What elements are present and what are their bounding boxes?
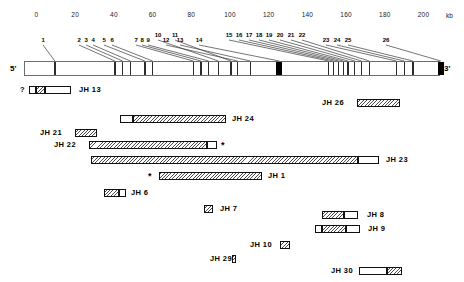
leader-line-20 <box>280 40 355 61</box>
leader-line-18 <box>259 40 343 61</box>
exon-label-9: 9 <box>146 37 149 43</box>
clone-segment-hatch <box>133 115 226 123</box>
exon-mark-24 <box>404 62 405 75</box>
leader-line-7 <box>136 45 193 61</box>
clone-asterisk-marker: * <box>221 142 225 148</box>
leader-line-2 <box>79 45 115 61</box>
clone-segment-white <box>207 141 217 149</box>
leader-line-3 <box>86 45 123 61</box>
exon-mark-5 <box>144 62 145 75</box>
clone-bar[interactable] <box>89 141 217 149</box>
leader-line-10 <box>158 40 218 61</box>
exon-mark-16 <box>333 62 334 75</box>
exon-label-18: 18 <box>256 32 262 38</box>
clone-segment-white <box>315 225 322 233</box>
scale-tick-80: 80 <box>187 11 195 18</box>
leader-line-17 <box>249 40 338 61</box>
clone-label-jh-30: JH 30 <box>331 266 353 275</box>
clone-asterisk-marker: * <box>148 173 152 179</box>
clone-label-jh-1: JH 1 <box>268 171 285 180</box>
exon-mark-17 <box>338 62 339 75</box>
scale-tick-200: 200 <box>418 11 429 18</box>
clone-segment-white <box>359 267 387 275</box>
clone-segment-hatch <box>322 211 344 219</box>
clone-segment-white <box>45 86 71 94</box>
leader-line-1 <box>43 45 55 61</box>
leader-line-22 <box>302 40 369 61</box>
exon-mark-3 <box>122 62 123 75</box>
clone-segment-hatch <box>91 156 358 164</box>
exon-label-1: 1 <box>41 37 44 43</box>
exon-mark-11 <box>230 62 231 75</box>
exon-label-3: 3 <box>84 37 87 43</box>
leader-line-12 <box>166 45 238 61</box>
clone-bar[interactable] <box>232 255 236 263</box>
leader-line-11 <box>175 40 231 61</box>
clone-segment-hatch <box>75 129 97 137</box>
clone-bar[interactable] <box>29 86 71 94</box>
exon-label-4: 4 <box>91 37 94 43</box>
gene-backbone <box>24 61 440 76</box>
clone-bar[interactable] <box>322 211 358 219</box>
scale-tick-140: 140 <box>302 11 313 18</box>
clone-bar[interactable] <box>357 99 400 107</box>
clone-bar[interactable] <box>359 267 402 275</box>
clone-segment-hatch <box>89 141 207 149</box>
leader-line-16 <box>239 40 334 61</box>
exon-label-16: 16 <box>236 32 242 38</box>
clone-label-jh-10: JH 10 <box>250 240 272 249</box>
exon-label-13: 13 <box>177 37 183 43</box>
exon-label-15: 15 <box>226 32 232 38</box>
clone-label-jh-21: JH 21 <box>40 128 62 137</box>
exon-mark-4 <box>130 62 131 75</box>
clone-segment-hatch <box>357 99 400 107</box>
clone-label-jh-26: JH 26 <box>322 98 344 107</box>
clone-bar[interactable] <box>120 115 226 123</box>
leader-line-24 <box>337 45 404 61</box>
exon-label-22: 22 <box>299 32 305 38</box>
scale-tick-60: 60 <box>149 11 157 18</box>
exon-mark-8 <box>200 62 201 75</box>
exon-mark-25 <box>412 62 413 75</box>
leader-line-8 <box>142 45 201 61</box>
clone-segment-white <box>358 156 379 164</box>
clone-bar[interactable] <box>204 205 213 213</box>
clone-segment-hatch <box>159 172 262 180</box>
exon-mark-14 <box>276 62 282 75</box>
clone-label-jh-6: JH 6 <box>131 188 148 197</box>
clone-segment-hatch <box>387 267 402 275</box>
scale-tick-120: 120 <box>263 11 274 18</box>
clone-bar[interactable] <box>104 189 126 197</box>
exon-label-8: 8 <box>140 37 143 43</box>
exon-label-5: 5 <box>102 37 105 43</box>
exon-mark-2 <box>114 62 115 75</box>
clone-bar[interactable] <box>159 172 262 180</box>
exon-mark-10 <box>218 62 219 75</box>
exon-label-23: 23 <box>323 37 329 43</box>
clone-segment-hatch <box>104 189 119 197</box>
scale-tick-100: 100 <box>224 11 235 18</box>
exon-mark-12 <box>237 62 238 75</box>
exon-label-12: 12 <box>163 37 169 43</box>
clone-segment-hatch <box>280 241 290 249</box>
exon-mark-7 <box>193 62 194 75</box>
clone-bar[interactable] <box>315 225 360 233</box>
clone-bar[interactable] <box>91 156 379 164</box>
leader-line-14 <box>199 45 279 61</box>
five-prime-label: 5' <box>10 64 16 73</box>
exon-mark-1 <box>54 62 55 75</box>
clone-bar[interactable] <box>75 129 97 137</box>
clone-segment-white <box>344 211 358 219</box>
scale-unit-label: kb <box>446 12 453 19</box>
clone-bar[interactable] <box>280 241 290 249</box>
scale-tick-180: 180 <box>379 11 390 18</box>
exon-mark-22 <box>369 62 370 75</box>
exon-mark-26 <box>438 62 444 75</box>
exon-label-10: 10 <box>155 32 161 38</box>
leader-line-26 <box>386 45 441 61</box>
exon-mark-20 <box>354 62 355 75</box>
leader-line-6 <box>112 45 153 61</box>
exon-mark-19 <box>347 62 348 75</box>
exon-label-24: 24 <box>334 37 340 43</box>
exon-label-17: 17 <box>246 32 252 38</box>
